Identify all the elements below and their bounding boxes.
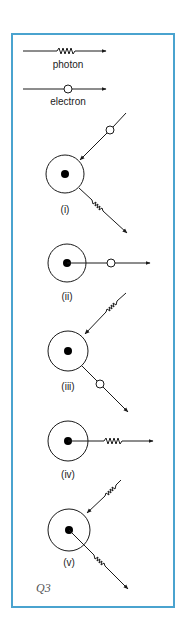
nucleus-icon xyxy=(64,347,72,355)
legend-electron-label: electron xyxy=(50,96,86,107)
figure-frame xyxy=(12,34,174,607)
panel-i-label: (i) xyxy=(61,204,70,215)
outgoing-electron-icon xyxy=(107,259,115,267)
incoming-electron-icon xyxy=(106,126,114,134)
panel-ii-label: (ii) xyxy=(61,291,72,302)
panel-iv-label: (iv) xyxy=(61,469,75,480)
panel-iii-label: (iii) xyxy=(61,381,74,392)
outgoing-electron-icon xyxy=(96,380,104,388)
atom-interaction-diagram: photon electron (i) (ii) (iii) (iv) xyxy=(0,0,181,643)
panel-v-label: (v) xyxy=(63,557,75,568)
question-label: Q3 xyxy=(36,581,51,595)
electron-symbol-icon xyxy=(64,85,72,93)
legend-photon-label: photon xyxy=(53,59,84,70)
nucleus-icon xyxy=(61,170,69,178)
